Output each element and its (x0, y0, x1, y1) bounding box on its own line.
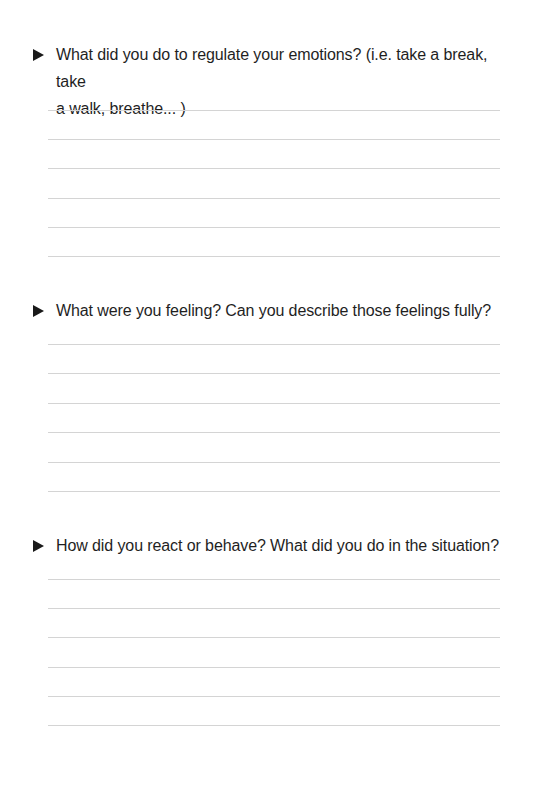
answer-line-q2-4[interactable] (48, 432, 500, 433)
question-3: How did you react or behave? What did yo… (33, 532, 503, 559)
answer-line-q2-1[interactable] (48, 344, 500, 345)
answer-line-q1-4[interactable] (48, 198, 500, 199)
answer-line-q1-6[interactable] (48, 256, 500, 257)
question-3-prompt: How did you react or behave? What did yo… (33, 532, 503, 559)
answer-line-q1-5[interactable] (48, 227, 500, 228)
answer-line-q3-2[interactable] (48, 608, 500, 609)
answer-line-q3-1[interactable] (48, 579, 500, 580)
triangle-bullet-icon (33, 49, 44, 61)
answer-line-q2-3[interactable] (48, 403, 500, 404)
question-1-line-1: What did you do to regulate your emotion… (56, 46, 487, 90)
answer-line-q2-5[interactable] (48, 462, 500, 463)
triangle-bullet-icon (33, 540, 44, 552)
question-2-prompt: What were you feeling? Can you describe … (33, 297, 503, 324)
answer-line-q1-3[interactable] (48, 168, 500, 169)
answer-line-q3-3[interactable] (48, 637, 500, 638)
answer-line-q1-1[interactable] (48, 110, 500, 111)
question-2: What were you feeling? Can you describe … (33, 297, 503, 324)
question-2-text: What were you feeling? Can you describe … (56, 302, 491, 319)
triangle-bullet-icon (33, 305, 44, 317)
answer-line-q1-2[interactable] (48, 139, 500, 140)
answer-line-q2-2[interactable] (48, 373, 500, 374)
answer-line-q3-5[interactable] (48, 696, 500, 697)
answer-line-q3-4[interactable] (48, 667, 500, 668)
question-3-text: How did you react or behave? What did yo… (56, 537, 499, 554)
answer-line-q3-6[interactable] (48, 725, 500, 726)
answer-line-q2-6[interactable] (48, 491, 500, 492)
question-1-line-2: a walk, breathe... ) (56, 100, 186, 117)
